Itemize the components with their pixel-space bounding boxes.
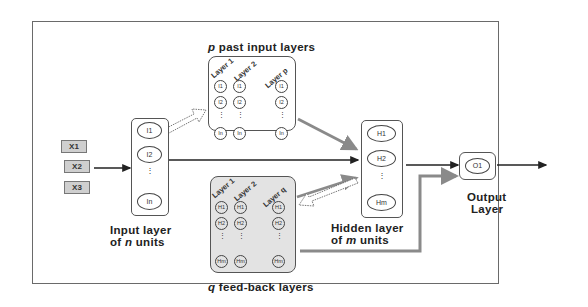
past-node-c1-r3: In	[214, 127, 227, 140]
feedback-node-c2-r3: Hm	[234, 255, 247, 268]
past-ellipsis-c3: ⋮	[277, 111, 287, 118]
feedback-ellipsis-c1: ⋮	[217, 232, 227, 239]
input-layer-caption-1: Input layer	[110, 224, 171, 236]
feedback-node-c2-r2: H2	[234, 217, 247, 230]
hidden-layer-caption-1: Hidden layer	[331, 222, 404, 234]
past-node-c3-r1: I1	[275, 80, 288, 93]
feedback-node-c1-r3: Hm	[215, 255, 228, 268]
input-ellipsis: ⋮	[145, 167, 155, 174]
arrow-past-to-hidden	[298, 119, 356, 149]
feedback-node-c2-r1: H1	[234, 201, 247, 214]
past-node-c2-r2: I2	[233, 96, 246, 109]
hidden-node-1: H1	[367, 125, 396, 142]
feedback-node-c1-r2: H2	[215, 217, 228, 230]
past-node-c3-r3: In	[275, 127, 288, 140]
hidden-node-2: H2	[367, 150, 396, 167]
past-node-c2-r3: In	[233, 127, 246, 140]
input-x2: X2	[64, 160, 90, 173]
input-node-2: I2	[137, 146, 162, 163]
hidden-layer-caption-2: of m units	[331, 234, 389, 246]
feedback-ellipsis-c3: ⋮	[274, 232, 284, 239]
feedback-node-c3-r2: H2	[272, 217, 285, 230]
output-node-1: O1	[465, 158, 490, 174]
past-input-layers-title: p past input layers	[208, 41, 315, 53]
input-x1: X1	[61, 140, 87, 153]
past-ellipsis-c1: ⋮	[216, 111, 226, 118]
past-node-c3-r2: I2	[275, 96, 288, 109]
past-node-c1-r2: I2	[214, 96, 227, 109]
feedback-layers-title: q feed-back layers	[208, 281, 314, 293]
hollow-arrow-hidden-to-feedback	[299, 178, 358, 206]
hidden-layer: H1 H2 ⋮ Hm	[361, 120, 403, 218]
input-x3: X3	[64, 181, 90, 194]
feedback-ellipsis-c2: ⋮	[236, 232, 246, 239]
output-layer-caption-1: Output	[467, 191, 506, 203]
feedback-node-c3-r1: H1	[272, 201, 285, 214]
hidden-node-m: Hm	[367, 194, 396, 211]
past-ellipsis-c2: ⋮	[235, 111, 245, 118]
input-node-1: I1	[137, 122, 162, 139]
input-layer: I1 I2 ⋮ In	[131, 118, 169, 216]
output-layer-caption-2: Layer	[471, 203, 503, 215]
past-input-layers: Layer 1 Layer 2 Layer p	[208, 56, 296, 131]
past-node-c1-r1: I1	[214, 80, 227, 93]
feedback-node-c3-r3: Hm	[272, 255, 285, 268]
output-layer: O1	[459, 152, 496, 180]
past-col-header-1: Layer 1	[209, 56, 235, 80]
past-col-header-2: Layer 2	[232, 59, 258, 83]
hidden-ellipsis: ⋮	[377, 172, 387, 179]
input-layer-caption-2: of n units	[110, 236, 165, 248]
past-node-c2-r1: I1	[233, 80, 246, 93]
diagram-canvas: p past input layers q feed-back layers X…	[0, 0, 588, 307]
feedback-node-c1-r1: H1	[215, 201, 228, 214]
input-node-n: In	[137, 193, 162, 210]
